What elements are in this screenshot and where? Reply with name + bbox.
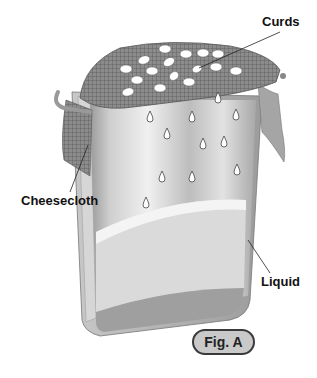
- label-liquid: Liquid: [261, 274, 300, 289]
- label-cheesecloth: Cheesecloth: [21, 193, 98, 208]
- figure-badge: Fig. A: [192, 329, 255, 355]
- cheese-strainer-illustration: [0, 0, 317, 378]
- label-curds: Curds: [262, 14, 300, 29]
